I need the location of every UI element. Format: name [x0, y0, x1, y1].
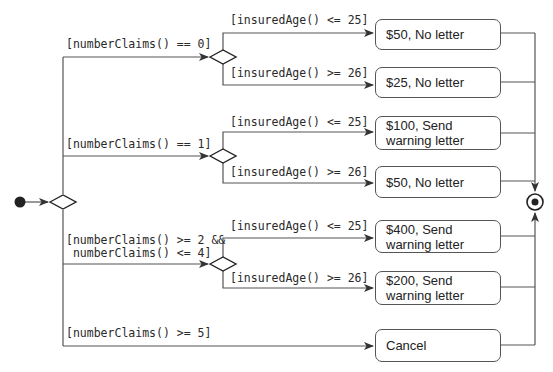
guard-age-old-3: [insuredAge() >= 26]: [230, 272, 368, 285]
action-box-5: $400, Send warning letter: [375, 220, 501, 253]
initial-node: [15, 197, 26, 208]
action-label: $400, Send warning letter: [386, 222, 464, 252]
action-label: $100, Send warning letter: [386, 118, 464, 148]
guard-age-young-3: [insuredAge() <= 25]: [230, 220, 368, 233]
action-box-1: $50, No letter: [375, 19, 501, 50]
action-box-4: $50, No letter: [375, 166, 501, 198]
main-decision-diamond: [50, 195, 76, 209]
action-label: $25, No letter: [386, 75, 464, 90]
guard-age-young-2: [insuredAge() <= 25]: [230, 116, 368, 129]
guard-age-young-1: [insuredAge() <= 25]: [230, 14, 368, 27]
guard-claims-2-to-4: [numberClaims() >= 2 && numberClaims() <…: [66, 234, 225, 260]
action-label: Cancel: [386, 338, 426, 353]
guard-claims-1: [numberClaims() == 1]: [66, 138, 211, 151]
action-label: $200, Send warning letter: [386, 273, 464, 303]
guard-claims-5-plus: [numberClaims() >= 5]: [66, 327, 211, 340]
action-box-3: $100, Send warning letter: [375, 116, 501, 150]
action-box-cancel: Cancel: [375, 329, 501, 362]
action-label: $50, No letter: [386, 27, 464, 42]
action-box-6: $200, Send warning letter: [375, 271, 501, 305]
action-box-2: $25, No letter: [375, 67, 501, 98]
action-label: $50, No letter: [386, 175, 464, 190]
age-decision-diamond-1: [210, 50, 236, 64]
guard-claims-0: [numberClaims() == 0]: [66, 38, 211, 51]
guard-age-old-2: [insuredAge() >= 26]: [230, 166, 368, 179]
guard-age-old-1: [insuredAge() >= 26]: [230, 67, 368, 80]
age-decision-diamond-2: [210, 149, 236, 163]
